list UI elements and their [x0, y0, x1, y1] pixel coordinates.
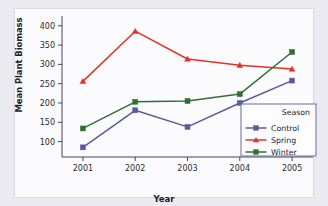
chart-figure: Mean Plant Biomass Year 1001502002503003… — [0, 0, 328, 206]
y-axis-title: Mean Plant Biomass — [14, 10, 24, 120]
x-axis-title: Year — [0, 194, 328, 204]
plot-area — [14, 8, 314, 198]
